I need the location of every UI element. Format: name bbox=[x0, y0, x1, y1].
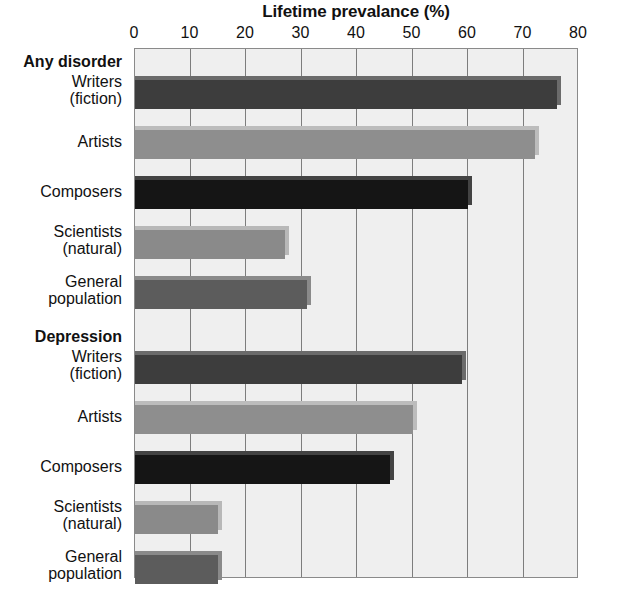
bar-side-edge bbox=[413, 401, 417, 430]
category-label-line1: General bbox=[65, 548, 122, 565]
x-axis-tick-labels: 01020304050607080 bbox=[0, 24, 620, 46]
bar-chart: Lifetime prevalance (%) 0102030405060708… bbox=[0, 0, 620, 603]
bar-side-edge bbox=[462, 351, 466, 380]
category-label-line1: Artists bbox=[78, 133, 122, 150]
category-label-line1: Artists bbox=[78, 408, 122, 425]
category-label-line1: General bbox=[65, 273, 122, 290]
category-label-line1: Scientists bbox=[54, 223, 122, 240]
bar-top-edge bbox=[135, 226, 289, 230]
bar bbox=[135, 551, 222, 584]
x-tick-label-10: 10 bbox=[181, 24, 199, 42]
bar-body bbox=[135, 555, 218, 584]
bar-side-edge bbox=[307, 276, 311, 305]
category-label: Generalpopulation bbox=[0, 548, 122, 582]
bar-side-edge bbox=[468, 176, 472, 205]
category-label-line2: (natural) bbox=[0, 240, 122, 257]
bar-body bbox=[135, 455, 390, 484]
bar-top-edge bbox=[135, 551, 222, 555]
bar-side-edge bbox=[557, 76, 561, 105]
category-label: Artists bbox=[0, 408, 122, 425]
category-label-line1: Composers bbox=[40, 458, 122, 475]
category-label-line1: Writers bbox=[72, 348, 122, 365]
bar-side-edge bbox=[218, 551, 222, 580]
bar-top-edge bbox=[135, 351, 466, 355]
chart-title: Lifetime prevalance (%) bbox=[134, 2, 578, 22]
category-label-line1: Scientists bbox=[54, 498, 122, 515]
bar bbox=[135, 126, 539, 159]
bar-top-edge bbox=[135, 451, 394, 455]
group-header-any-disorder: Any disorder bbox=[0, 53, 122, 70]
bar bbox=[135, 351, 466, 384]
bar-body bbox=[135, 130, 535, 159]
bar bbox=[135, 451, 394, 484]
bar-body bbox=[135, 180, 468, 209]
category-label: Generalpopulation bbox=[0, 273, 122, 307]
category-label: Artists bbox=[0, 133, 122, 150]
category-label-line2: population bbox=[0, 290, 122, 307]
bar-side-edge bbox=[390, 451, 394, 480]
category-label-line2: (fiction) bbox=[0, 90, 122, 107]
category-label-line1: Composers bbox=[40, 183, 122, 200]
bar-body bbox=[135, 230, 285, 259]
x-tick-label-30: 30 bbox=[292, 24, 310, 42]
bar-side-edge bbox=[218, 501, 222, 530]
bar-body bbox=[135, 505, 218, 534]
group-header-depression: Depression bbox=[0, 328, 122, 345]
x-tick-label-20: 20 bbox=[236, 24, 254, 42]
bar-side-edge bbox=[285, 226, 289, 255]
bar-body bbox=[135, 280, 307, 309]
category-labels: Any disorderWriters(fiction)ArtistsCompo… bbox=[0, 48, 128, 578]
category-label: Scientists(natural) bbox=[0, 223, 122, 257]
category-label-line1: Writers bbox=[72, 73, 122, 90]
category-label-line2: population bbox=[0, 565, 122, 582]
bar bbox=[135, 276, 311, 309]
bars-layer bbox=[135, 49, 577, 577]
bar bbox=[135, 176, 472, 209]
x-tick-label-50: 50 bbox=[403, 24, 421, 42]
bar-body bbox=[135, 355, 462, 384]
bar-top-edge bbox=[135, 76, 561, 80]
x-tick-label-40: 40 bbox=[347, 24, 365, 42]
plot-area bbox=[134, 48, 578, 578]
bar bbox=[135, 401, 417, 434]
category-label: Composers bbox=[0, 458, 122, 475]
bar bbox=[135, 501, 222, 534]
bar bbox=[135, 76, 561, 109]
x-tick-label-60: 60 bbox=[458, 24, 476, 42]
category-label-line2: (natural) bbox=[0, 515, 122, 532]
bar-top-edge bbox=[135, 276, 311, 280]
bar-side-edge bbox=[535, 126, 539, 155]
x-tick-label-70: 70 bbox=[514, 24, 532, 42]
category-label-line2: (fiction) bbox=[0, 365, 122, 382]
x-tick-label-80: 80 bbox=[569, 24, 587, 42]
bar-body bbox=[135, 405, 413, 434]
bar-top-edge bbox=[135, 401, 417, 405]
bar-body bbox=[135, 80, 557, 109]
category-label: Scientists(natural) bbox=[0, 498, 122, 532]
x-tick-label-0: 0 bbox=[130, 24, 139, 42]
bar bbox=[135, 226, 289, 259]
bar-top-edge bbox=[135, 126, 539, 130]
category-label: Writers(fiction) bbox=[0, 73, 122, 107]
category-label: Writers(fiction) bbox=[0, 348, 122, 382]
bar-top-edge bbox=[135, 176, 472, 180]
category-label: Composers bbox=[0, 183, 122, 200]
bar-top-edge bbox=[135, 501, 222, 505]
